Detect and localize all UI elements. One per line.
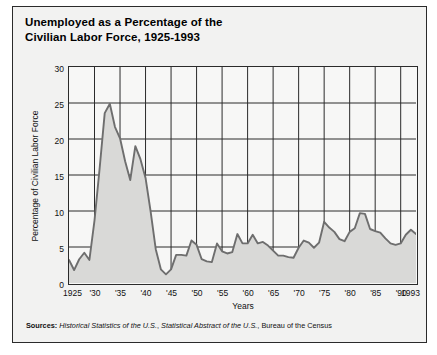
figure-frame: Unemployed as a Percentage of the Civili… <box>12 6 427 343</box>
chart-page: Unemployed as a Percentage of the Civili… <box>0 0 437 355</box>
x-tick-label: 1993 <box>401 288 420 298</box>
x-axis-ticks: 1925'30'35'40'45'50'55'60'65'70'75'80'85… <box>68 288 418 302</box>
area-chart-svg <box>69 67 416 283</box>
sources-italic-2: Statistical Abstract of the U.S. <box>161 321 257 330</box>
area-fill <box>69 104 416 283</box>
sources-tail: Bureau of the Census <box>261 321 332 330</box>
y-tick-label: 5 <box>36 243 64 253</box>
y-tick-label: 15 <box>36 171 64 181</box>
y-tick-label: 0 <box>36 279 64 289</box>
sources-label: Sources: <box>26 321 57 330</box>
y-tick-label: 30 <box>36 63 64 73</box>
x-tick-label: '80 <box>345 288 356 298</box>
y-tick-label: 20 <box>36 135 64 145</box>
sources-italic-1: Historical Statistics of the U.S. <box>59 321 157 330</box>
x-tick-label: '40 <box>140 288 151 298</box>
x-axis-title: Years <box>68 301 418 311</box>
page-title: Unemployed as a Percentage of the Civili… <box>25 15 355 44</box>
x-tick-label: '50 <box>192 288 203 298</box>
x-tick-label: '30 <box>89 288 100 298</box>
title-line-2: Civilian Labor Force, 1925-1993 <box>25 30 355 45</box>
y-tick-label: 10 <box>36 207 64 217</box>
plot-box <box>68 66 418 285</box>
chart-area: Percentage of Civilian Labor Force 05101… <box>51 66 419 313</box>
x-tick-label: '85 <box>370 288 381 298</box>
x-tick-label: '70 <box>294 288 305 298</box>
sources-note: Sources: Historical Statistics of the U.… <box>26 321 414 331</box>
x-tick-label: '60 <box>243 288 254 298</box>
x-tick-label: '65 <box>268 288 279 298</box>
x-tick-label: '55 <box>217 288 228 298</box>
x-tick-label: 1925 <box>63 288 82 298</box>
x-tick-label: '75 <box>319 288 330 298</box>
x-tick-label: '45 <box>166 288 177 298</box>
title-line-1: Unemployed as a Percentage of the <box>25 15 355 30</box>
x-tick-label: '35 <box>115 288 126 298</box>
y-tick-label: 25 <box>36 99 64 109</box>
